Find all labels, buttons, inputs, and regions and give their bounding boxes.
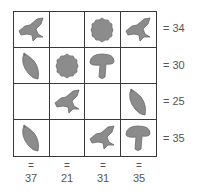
grid-cell-r4-c4	[121, 120, 157, 156]
grid-cell-r2-c3	[85, 48, 121, 84]
col-sum-1: = 37	[13, 161, 49, 184]
row-sum-1: = 34	[163, 22, 185, 34]
grid-cell-r3-c4	[121, 84, 157, 120]
flower-icon	[52, 51, 82, 81]
col-sum-3: = 31	[85, 161, 121, 184]
col-value-4: 35	[121, 173, 157, 184]
row-sum-4: = 35	[163, 132, 185, 144]
row-sum-2: = 30	[163, 59, 185, 71]
mushroom-icon	[123, 123, 153, 153]
col-sum-4: = 35	[121, 161, 157, 184]
grid-cell-r3-c1	[14, 84, 50, 120]
bird-icon	[16, 15, 46, 45]
flower-icon	[87, 15, 117, 45]
mushroom-icon	[87, 51, 117, 81]
col-equals-2: =	[49, 161, 85, 171]
grid-cell-r3-c2	[50, 84, 86, 120]
col-equals-4: =	[121, 161, 157, 171]
leaf-icon	[123, 87, 153, 117]
col-value-3: 31	[85, 173, 121, 184]
grid-cell-r4-c3	[85, 120, 121, 156]
col-sum-2: = 21	[49, 161, 85, 184]
bird-icon	[123, 15, 153, 45]
grid-cell-r4-c2	[50, 120, 86, 156]
grid-cell-r2-c4	[121, 48, 157, 84]
col-equals-3: =	[85, 161, 121, 171]
leaf-icon	[16, 51, 46, 81]
grid-cell-r2-c2	[50, 48, 86, 84]
grid-cell-r3-c3	[85, 84, 121, 120]
col-value-2: 21	[49, 173, 85, 184]
grid-cell-r4-c1	[14, 120, 50, 156]
row-sum-3: = 25	[163, 95, 185, 107]
col-value-1: 37	[13, 173, 49, 184]
grid-cell-r1-c2	[50, 12, 86, 48]
grid-cell-r2-c1	[14, 48, 50, 84]
grid-cell-r1-c3	[85, 12, 121, 48]
leaf-icon	[16, 123, 46, 153]
puzzle-grid	[13, 11, 157, 157]
grid-cell-r1-c4	[121, 12, 157, 48]
grid-cell-r1-c1	[14, 12, 50, 48]
bird-icon	[87, 123, 117, 153]
bird-icon	[52, 87, 82, 117]
col-equals-1: =	[13, 161, 49, 171]
